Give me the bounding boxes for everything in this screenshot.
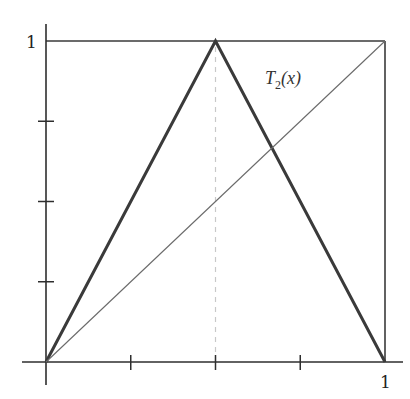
y-axis-label-one: 1 [26, 32, 37, 52]
tent-map-chart: 1 1 T2(x) [0, 0, 410, 399]
curve-label-t2: T2(x) [265, 68, 301, 92]
x-axis-label-one: 1 [380, 372, 391, 392]
curve-label-argument: (x) [281, 68, 301, 89]
